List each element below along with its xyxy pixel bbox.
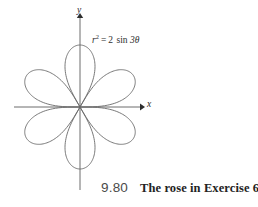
rose-petal — [80, 107, 135, 144]
rose-petal — [25, 107, 80, 144]
caption-number: 9.80 — [101, 180, 128, 195]
figure-page: r2=2 sin 3θ y x 9.80 The rose in Exercis… — [0, 0, 258, 207]
rose-petal — [25, 70, 80, 107]
figure-caption: 9.80 The rose in Exercise 6. — [101, 180, 258, 196]
equation-argument: 3θ — [130, 35, 139, 45]
equation-function: sin — [116, 35, 127, 45]
y-axis-label: y — [77, 5, 81, 15]
x-axis-label: x — [147, 99, 151, 109]
caption-text: The rose in Exercise 6. — [140, 181, 258, 196]
x-axis-arrowhead — [140, 104, 145, 111]
equation-equals: = — [101, 35, 106, 45]
equation-exponent: 2 — [96, 33, 99, 40]
rose-petal — [80, 70, 135, 107]
polar-equation-label: r2=2 sin 3θ — [92, 33, 139, 45]
rose-curve-figure — [0, 0, 258, 207]
equation-coefficient: 2 — [108, 35, 113, 45]
